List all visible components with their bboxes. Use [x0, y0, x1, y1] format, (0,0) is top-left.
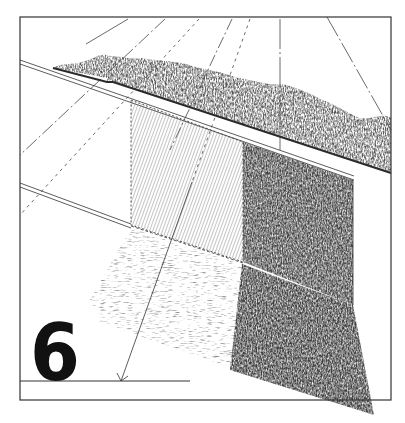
figure-number: 6 [30, 318, 80, 388]
